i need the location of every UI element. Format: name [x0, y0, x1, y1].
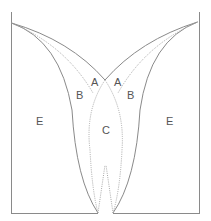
label-a-left: A — [91, 76, 99, 88]
dotted-spike-right — [106, 165, 113, 213]
label-b-left: B — [76, 89, 83, 101]
frame — [12, 12, 200, 214]
label-e-right: E — [166, 115, 173, 127]
dotted-spike-left — [98, 165, 105, 213]
outer-curve-right — [113, 22, 198, 213]
region-diagram: A A B B E C E — [0, 0, 211, 221]
label-e-left: E — [36, 115, 43, 127]
label-b-right: B — [127, 89, 134, 101]
label-c-center: C — [102, 124, 110, 136]
outer-curve-left — [12, 23, 99, 213]
dotted-c-left — [89, 80, 105, 213]
dotted-c-right — [105, 80, 122, 213]
upper-arc-left — [12, 23, 106, 80]
region-labels: A A B B E C E — [36, 76, 173, 136]
label-a-right: A — [114, 76, 122, 88]
dotted-diagonal-right — [118, 22, 198, 93]
dotted-diagonal-left — [12, 23, 94, 93]
upper-arc-right — [105, 22, 198, 80]
